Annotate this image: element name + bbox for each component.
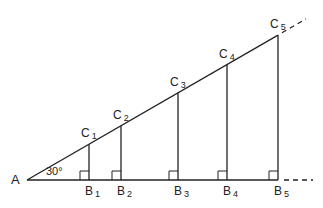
label-b4: B4 — [223, 184, 238, 199]
right-angle-marker-2 — [112, 171, 121, 180]
label-b2: B2 — [117, 184, 132, 199]
label-b5: B5 — [274, 184, 289, 199]
angle-label: 30° — [46, 165, 63, 177]
right-angle-marker-4 — [218, 171, 227, 180]
right-angle-marker-1 — [80, 171, 89, 180]
right-angle-marker-5 — [269, 171, 278, 180]
hypotenuse — [27, 35, 278, 180]
label-c2: C2 — [113, 108, 129, 123]
vertex-label-a: A — [11, 172, 20, 187]
label-c5: C5 — [270, 17, 286, 32]
label-c1: C1 — [81, 126, 97, 141]
right-angle-marker-3 — [169, 171, 178, 180]
label-c3: C3 — [170, 75, 186, 90]
similar-triangles-diagram: A30°B1C1B2C2B3C3B4C4B5C5 — [0, 0, 323, 208]
label-b3: B3 — [174, 184, 189, 199]
label-c4: C4 — [219, 47, 235, 62]
label-b1: B1 — [85, 184, 100, 199]
